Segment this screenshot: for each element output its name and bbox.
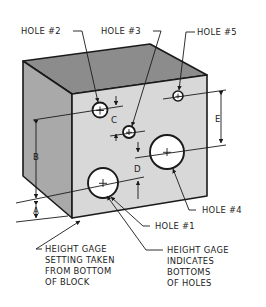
indicates-line-2: INDICATES [167, 256, 214, 266]
hole-3 [123, 126, 135, 138]
indicates-line-1: HEIGHT GAGE [167, 245, 229, 255]
hole-2-label: HOLE #2 [21, 26, 61, 36]
dim-b-label: B [33, 152, 39, 162]
dim-a-label: A [33, 206, 39, 216]
block-hole-layout-diagram: A B C D E HOLE #2 HOLE #3 HOLE #5 HOLE #… [0, 0, 266, 307]
hole-4-label: HOLE #4 [202, 205, 242, 215]
dim-d-label: D [134, 164, 141, 174]
setting-line-2: SETTING TAKEN [45, 255, 115, 265]
setting-line-4: OF BLOCK [45, 277, 90, 287]
indicates-callout: HEIGHT GAGE INDICATES BOTTOMS OF HOLES [167, 245, 229, 288]
setting-callout: HEIGHT GAGE SETTING TAKEN FROM BOTTOM OF… [45, 244, 115, 287]
setting-line-3: FROM BOTTOM [45, 266, 112, 276]
indicates-line-4: OF HOLES [167, 278, 212, 288]
dim-c-label: C [111, 115, 117, 125]
hole-1-label: HOLE #1 [155, 221, 195, 231]
dim-e-label: E [215, 114, 220, 124]
hole-5-label: HOLE #5 [197, 27, 237, 37]
block-front-face [72, 75, 207, 218]
indicates-line-3: BOTTOMS [167, 267, 211, 277]
hole-3-label: HOLE #3 [101, 26, 141, 36]
setting-line-1: HEIGHT GAGE [45, 244, 107, 254]
